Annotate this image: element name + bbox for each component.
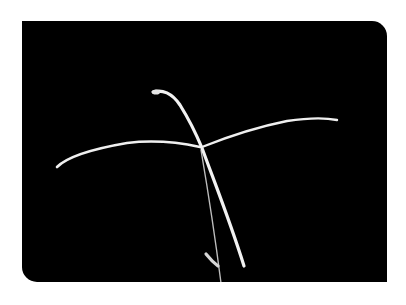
arching-spikelet: [153, 91, 244, 266]
photo: Photograph of a grass inflorescence with…: [22, 21, 387, 282]
grass-seed-head-illustration: [22, 21, 387, 282]
left-spikelet: [57, 142, 200, 167]
leaflet: [206, 254, 218, 266]
right-spikelet: [202, 119, 337, 147]
spikelet-tip: [152, 89, 160, 94]
